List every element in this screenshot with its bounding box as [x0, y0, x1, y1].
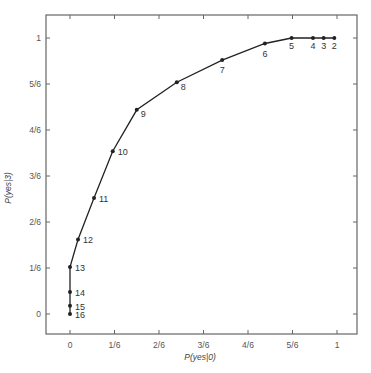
data-point-label: 4	[310, 41, 315, 51]
y-tick-label: 5/6	[29, 79, 41, 89]
data-point-marker	[68, 265, 72, 269]
axis-ticks	[46, 15, 357, 334]
data-point-marker	[68, 304, 72, 308]
data-point-marker	[68, 290, 72, 294]
data-point-label: 13	[75, 263, 85, 273]
data-point-label: 6	[262, 49, 267, 59]
y-tick-label: 4/6	[29, 125, 41, 135]
y-tick-label: 3/6	[29, 171, 41, 181]
data-points	[68, 36, 336, 316]
data-point-label: 3	[321, 41, 326, 51]
y-axis-label: P(yes|3)	[3, 172, 13, 204]
roc-chart: 01/62/63/64/65/6101/62/63/64/65/61 23456…	[0, 0, 371, 373]
data-point-marker	[290, 36, 294, 40]
data-point-label: 12	[83, 235, 93, 245]
x-tick-label: 2/6	[153, 340, 165, 350]
y-tick-label: 0	[36, 309, 41, 319]
data-point-marker	[332, 36, 336, 40]
data-point-label: 10	[118, 147, 128, 157]
data-point-label: 5	[289, 41, 294, 51]
data-point-label: 11	[99, 194, 108, 204]
data-point-marker	[76, 237, 80, 241]
data-point-marker	[111, 149, 115, 153]
data-point-label: 16	[75, 310, 85, 320]
x-tick-label: 4/6	[242, 340, 254, 350]
data-point-marker	[92, 196, 96, 200]
data-point-label: 8	[181, 82, 186, 92]
y-tick-label: 1/6	[29, 263, 41, 273]
x-axis-label: P(yes|0)	[184, 352, 216, 362]
data-point-marker	[322, 36, 326, 40]
data-point-label: 2	[332, 41, 337, 51]
data-point-marker	[68, 312, 72, 316]
data-point-label: 14	[75, 288, 85, 298]
x-tick-label: 1/6	[109, 340, 121, 350]
y-tick-label: 1	[36, 33, 41, 43]
y-tick-label: 2/6	[29, 217, 41, 227]
roc-curve-line	[70, 38, 334, 314]
plot-frame	[46, 15, 357, 334]
x-tick-label: 0	[68, 340, 73, 350]
data-point-label: 9	[141, 109, 146, 119]
x-tick-label: 1	[335, 340, 340, 350]
data-point-marker	[135, 108, 139, 112]
x-tick-label: 5/6	[287, 340, 299, 350]
data-point-marker	[263, 42, 267, 46]
x-tick-label: 3/6	[198, 340, 210, 350]
data-point-label: 7	[220, 65, 225, 75]
data-point-marker	[175, 80, 179, 84]
data-point-labels: 2345678910111213141516	[75, 41, 337, 320]
data-point-marker	[311, 36, 315, 40]
data-point-marker	[220, 58, 224, 62]
